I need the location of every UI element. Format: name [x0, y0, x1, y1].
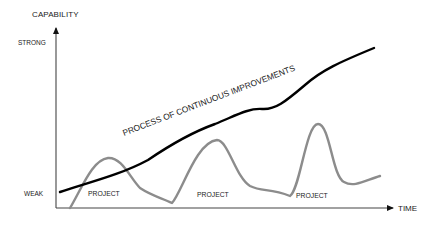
y-axis-label: CAPABILITY: [32, 10, 79, 19]
x-axis-label: TIME: [398, 204, 417, 213]
y-axis-weak-label: WEAK: [24, 190, 43, 197]
project-label-3: PROJECT: [296, 192, 328, 199]
continuous-improvement-curve: [60, 48, 374, 192]
y-axis-strong-label: STRONG: [18, 39, 46, 46]
project-label-1: PROJECT: [88, 190, 120, 197]
project-label-2: PROJECT: [197, 191, 229, 198]
